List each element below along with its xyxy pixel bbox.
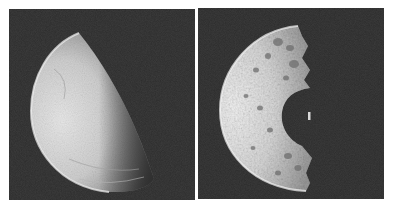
moon-right-graphic (198, 8, 384, 199)
moon-image-left (9, 9, 195, 200)
moon-left-graphic (9, 9, 195, 200)
image-figure (0, 0, 394, 209)
moon-image-right (198, 8, 384, 199)
